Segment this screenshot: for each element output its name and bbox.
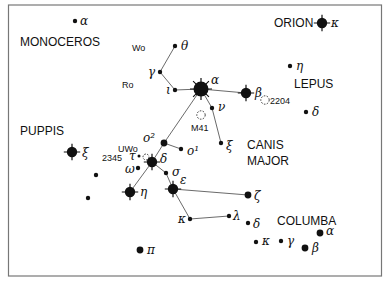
star-label: ω — [125, 162, 135, 176]
star-label: κ — [261, 234, 270, 248]
star-label: η — [296, 59, 304, 73]
star-pup_pi: π — [137, 243, 156, 257]
annotation-label: Ro — [122, 80, 134, 90]
star-label: α — [80, 14, 88, 28]
constellation-name: ORION — [274, 16, 313, 30]
star-cma_omega: ω — [125, 162, 140, 176]
star-label: o² — [143, 131, 155, 145]
star-cma_sigma: σ — [164, 165, 181, 179]
constellation-name: LEPUS — [294, 77, 333, 91]
star-label: η — [140, 185, 148, 199]
star-cma_eta: η — [122, 184, 148, 200]
star-lep_delta: δ — [304, 105, 319, 119]
constellation-line — [164, 89, 201, 143]
cluster-label: M41 — [191, 123, 209, 133]
star-cma_alpha: α — [190, 73, 219, 100]
star-col_beta: β — [302, 241, 319, 255]
cluster-label: 2204 — [270, 96, 290, 106]
star-label: β — [254, 86, 262, 100]
star-label: δ — [160, 152, 167, 166]
star-cma_lambda: λ — [227, 209, 241, 223]
star-label: ξ — [82, 146, 90, 160]
star-label: α — [211, 73, 219, 87]
constellation-line — [190, 216, 229, 219]
star-cma_kappa: κ — [177, 212, 192, 226]
star-cma_zeta: ζ — [245, 189, 262, 203]
star-cma_theta: θ — [173, 39, 189, 53]
star-cluster-icon — [197, 111, 205, 119]
star-cma_gamma: γ — [148, 65, 162, 79]
star-ori_kappa: κ — [314, 15, 339, 31]
star-label: ν — [218, 100, 225, 114]
constellation-line — [160, 46, 175, 72]
star-cluster-icon — [261, 96, 269, 104]
star-label: o¹ — [187, 144, 199, 158]
star-label: γ — [287, 234, 295, 248]
star-col_delta: δ — [246, 217, 260, 231]
star-label: π — [146, 243, 156, 257]
star-label: ξ — [226, 139, 234, 153]
star-label: ζ — [254, 189, 262, 203]
star-cma_o2: o² — [143, 131, 167, 146]
star-label: κ — [330, 16, 339, 30]
star-label: λ — [232, 209, 241, 223]
star-label: γ — [148, 65, 156, 79]
star-label: δ — [312, 105, 319, 119]
star-chart: M412204 ακηδθγιαβνξo²o¹δτωσηεζκλδακγβξπ … — [0, 0, 387, 284]
star-cma_iota: ι — [166, 83, 177, 97]
star-col_gamma: γ — [279, 234, 295, 248]
constellation-name: MONOCEROS — [20, 35, 100, 49]
constellation-name: COLUMBA — [277, 214, 336, 228]
constellation-line — [173, 189, 248, 195]
star-cma_xi: ξ — [219, 139, 234, 153]
star-lep_eta: η — [288, 59, 304, 73]
star-pup_2 — [86, 196, 90, 200]
constellation-name: MAJOR — [247, 154, 289, 168]
star-label: κ — [177, 212, 186, 226]
star-label: β — [311, 241, 319, 255]
star-cma_nu: ν — [210, 100, 225, 114]
star-mon_alpha: α — [73, 14, 88, 28]
star-cma_o1: o¹ — [179, 144, 199, 158]
star-label: ε — [180, 173, 186, 187]
star-cma_beta: β — [238, 85, 262, 101]
constellation-name: PUPPIS — [20, 124, 64, 138]
star-pup_xi: ξ — [64, 144, 90, 160]
annotation-label: Wo — [132, 43, 145, 53]
star-pup_1 — [94, 173, 98, 177]
annotation-label: 2345 — [102, 153, 122, 163]
star-col_kappa: κ — [254, 234, 270, 248]
star-label: δ — [253, 217, 260, 231]
constellation-name: CANIS — [247, 138, 284, 152]
star-label: θ — [181, 39, 189, 53]
star-label: ι — [166, 83, 171, 97]
